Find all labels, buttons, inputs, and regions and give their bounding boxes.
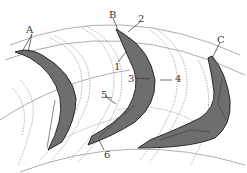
reference-arcs <box>0 25 245 172</box>
label-2: 2 <box>138 13 144 24</box>
label-5: 5 <box>101 89 107 100</box>
turbine-blade-diagram: A B 2 1 3 4 5 6 C <box>0 0 247 173</box>
label-a: A <box>25 24 34 35</box>
label-b: B <box>109 9 116 20</box>
label-c: C <box>217 34 225 45</box>
label-6: 6 <box>104 149 110 160</box>
label-4: 4 <box>175 73 181 84</box>
label-3: 3 <box>128 73 134 84</box>
label-1: 1 <box>114 61 120 72</box>
blade-a <box>15 50 76 150</box>
